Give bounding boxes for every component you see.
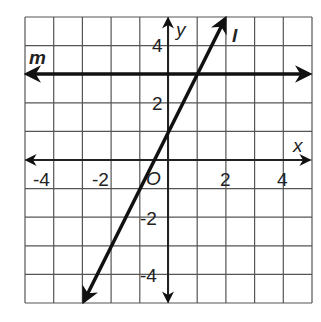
x-tick-label: 2 [220,169,231,190]
line-l-label: l [232,25,238,46]
x-axis-label: x [292,135,304,156]
y-tick-label: 4 [152,35,163,56]
y-tick-label: 2 [152,93,163,114]
x-tick-label: -2 [92,169,109,190]
y-tick-label: -4 [140,265,157,286]
x-tick-label: 4 [277,169,288,190]
x-tick-label: -4 [33,169,50,190]
coordinate-plane: m l y x O -4 -2 2 4 4 2 -2 -4 [0,0,321,322]
y-axis-label: y [174,19,187,40]
y-tick-label: -2 [140,208,157,229]
origin-label: O [146,168,161,189]
line-m-label: m [29,47,46,68]
